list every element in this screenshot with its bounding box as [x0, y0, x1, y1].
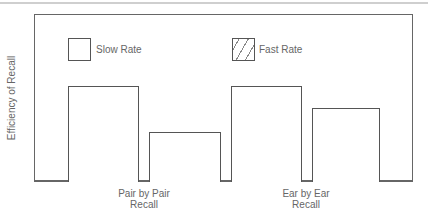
x-label-line2: Recall [256, 199, 356, 210]
x-label-pair-by-pair: Pair by Pair Recall [94, 188, 194, 210]
top-rule [0, 2, 428, 4]
bar-pair-fast [149, 132, 221, 182]
bar-ear-fast [312, 108, 380, 182]
legend-label-fast-rate: Fast Rate [259, 44, 302, 55]
x-label-line1: Ear by Ear [256, 188, 356, 199]
x-label-line2: Recall [94, 199, 194, 210]
legend-swatch-slow-rate [68, 38, 91, 61]
legend-label-slow-rate: Slow Rate [96, 44, 142, 55]
bar-pair-slow [68, 86, 139, 182]
bar-ear-slow [231, 86, 302, 182]
x-label-ear-by-ear: Ear by Ear Recall [256, 188, 356, 210]
x-label-line1: Pair by Pair [94, 188, 194, 199]
y-axis-label: Efficiency of Recall [6, 56, 17, 140]
legend-swatch-fast-rate [232, 38, 255, 61]
